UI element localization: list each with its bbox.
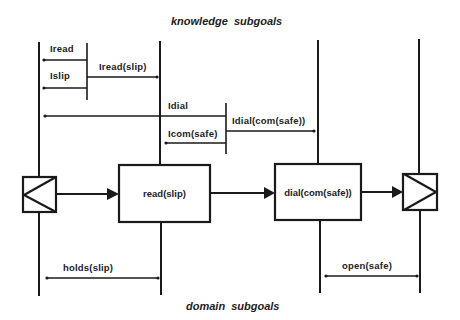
arrowhead-to-end: [392, 186, 403, 198]
label-icom-safe: Icom(safe): [168, 128, 218, 139]
arrowhead-to-dial: [264, 187, 275, 199]
label-iread-slip: Iread(slip): [99, 61, 147, 72]
label-open-safe: open(safe): [342, 260, 392, 271]
start-symbol: [23, 177, 56, 212]
label-dial-com-safe: dial(com(safe)): [275, 164, 361, 220]
title-domain-subgoals: domain subgoals: [186, 300, 279, 312]
end-symbol: [403, 174, 437, 210]
title-knowledge-subgoals: knowledge subgoals: [171, 15, 282, 27]
label-islip: Islip: [50, 70, 70, 81]
label-idial: Idial: [168, 100, 188, 111]
arrowhead-to-read: [107, 188, 119, 200]
label-holds-slip: holds(slip): [63, 262, 113, 273]
label-iread: Iread: [50, 43, 74, 54]
label-idial-com-safe: Idial(com(safe)): [232, 115, 305, 126]
label-read-slip: read(slip): [119, 165, 210, 222]
